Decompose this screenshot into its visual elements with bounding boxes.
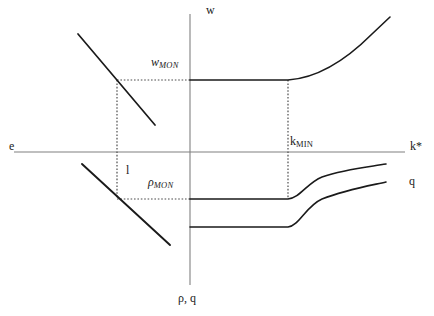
wage-curve bbox=[190, 17, 390, 80]
vertical-axis-bottom-label: ρ, q bbox=[178, 292, 196, 304]
w-mon-base: w bbox=[151, 55, 159, 69]
diagram-canvas bbox=[0, 0, 434, 316]
k-min-subscript: MIN bbox=[296, 139, 313, 149]
q-curve-label: q bbox=[409, 175, 415, 187]
rho-mon-subscript: MON bbox=[154, 180, 174, 190]
w-mon-subscript: MON bbox=[159, 60, 179, 70]
horizontal-axis-right-label: k* bbox=[410, 140, 422, 152]
economics-diagram: w ρ, q k* e wMON ρMON kMIN q l bbox=[0, 0, 434, 316]
rho-mon-label: ρMON bbox=[148, 176, 173, 189]
q-curve bbox=[190, 182, 386, 227]
k-min-label: kMIN bbox=[290, 135, 313, 148]
vertical-axis-top-label: w bbox=[206, 4, 215, 16]
w-mon-label: wMON bbox=[151, 56, 179, 69]
labor-label: l bbox=[126, 164, 129, 176]
horizontal-axis-left-label: e bbox=[9, 140, 14, 152]
